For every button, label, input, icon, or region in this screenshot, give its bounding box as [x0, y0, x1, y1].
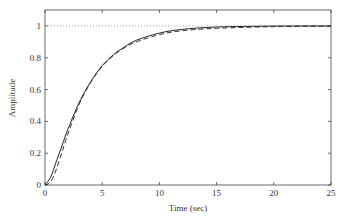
y-tick-label: 0.2: [30, 148, 41, 158]
plot-area: [45, 10, 331, 185]
x-tick-label: 0: [43, 188, 48, 198]
y-tick-label: 0.8: [30, 53, 42, 63]
y-tick-label: 0: [37, 180, 42, 190]
x-tick-label: 15: [212, 188, 222, 198]
x-tick-label: 25: [327, 188, 337, 198]
y-tick-label: 0.4: [30, 116, 42, 126]
x-tick-label: 20: [269, 188, 279, 198]
x-axis-label: Time (sec): [169, 203, 207, 213]
x-tick-label: 10: [155, 188, 165, 198]
y-axis-label: Amplitude: [7, 79, 17, 118]
y-tick-label: 1: [37, 21, 42, 31]
x-tick-label: 5: [100, 188, 105, 198]
step-response-chart: 051015202500.20.40.60.81 Time (sec) Ampl…: [0, 0, 343, 220]
y-tick-label: 0.6: [30, 85, 42, 95]
